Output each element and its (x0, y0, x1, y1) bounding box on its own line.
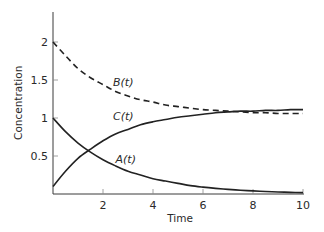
y-axis-title: Concentration (12, 66, 24, 140)
y-tick-label: 2 (41, 36, 48, 49)
labels: B(t)C(t)A(t) (113, 76, 136, 166)
x-tick-label: 4 (150, 199, 157, 212)
x-tick-label: 8 (250, 199, 257, 212)
curves (53, 42, 303, 193)
concentration-chart: 2468100.511.52TimeConcentration B(t)C(t)… (0, 0, 324, 232)
curve-c (53, 110, 303, 187)
curve-b (53, 42, 303, 113)
curve-a (53, 118, 303, 193)
curve-label-b: B(t) (113, 76, 133, 89)
x-tick-label: 10 (296, 199, 310, 212)
curve-label-c: C(t) (113, 110, 134, 123)
y-tick-label: 0.5 (31, 150, 49, 163)
x-tick-label: 2 (100, 199, 107, 212)
y-tick-label: 1 (41, 112, 48, 125)
y-tick-label: 1.5 (31, 74, 49, 87)
x-axis-title: Time (166, 212, 193, 224)
curve-label-a: A(t) (115, 153, 136, 166)
x-tick-label: 6 (200, 199, 207, 212)
